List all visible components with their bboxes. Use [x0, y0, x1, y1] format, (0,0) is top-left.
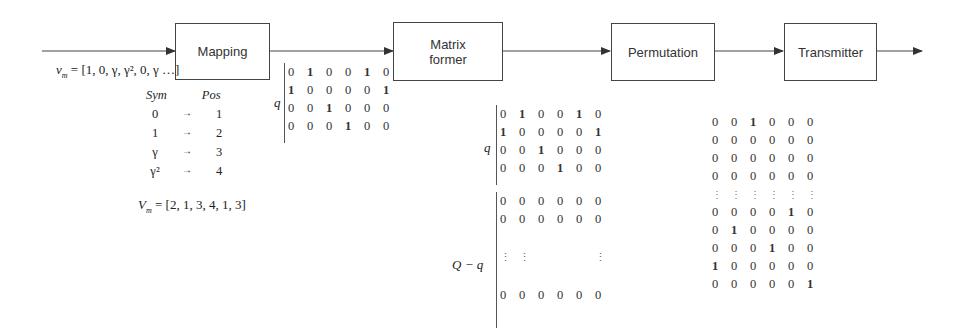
matrix-former-label-2: former — [429, 52, 467, 67]
cell: 0 — [769, 133, 788, 148]
mapping-pos: 2 — [202, 126, 236, 145]
cell: 0 — [788, 133, 807, 148]
mapping-sym: 1 — [138, 126, 172, 145]
input-vector-subscript: m — [62, 71, 68, 80]
cell: 0 — [576, 143, 595, 158]
cell: 0 — [383, 101, 402, 116]
cell: 0 — [500, 194, 519, 209]
matrix-full-top: 010010 100001 001000 000100 — [500, 105, 614, 177]
matrix-permuted: 001000 000000 000000 000000 ⋮⋮⋮⋮⋮⋮ 00001… — [712, 113, 826, 293]
cell: 1 — [731, 223, 750, 238]
cell: 0 — [383, 65, 402, 80]
cell: 0 — [750, 241, 769, 256]
cell: 0 — [364, 83, 383, 98]
cell: 0 — [750, 259, 769, 274]
cell: 1 — [807, 277, 826, 292]
cell: 0 — [519, 125, 538, 140]
matrix-row: 000000 — [500, 210, 614, 228]
vertical-ellipsis: ⋮ — [750, 189, 769, 200]
cell: 0 — [731, 115, 750, 130]
cell: 0 — [595, 194, 614, 209]
cell: 0 — [807, 223, 826, 238]
mapping-table: Sym Pos 0 → 1 1 → 2 γ → 3 γ² → 4 — [138, 88, 248, 183]
cell: 1 — [712, 259, 731, 274]
transmitter-label: Transmitter — [798, 45, 863, 60]
cell: 0 — [288, 101, 307, 116]
mapping-row: γ → 3 — [138, 145, 248, 164]
transmitter-block: Transmitter — [784, 23, 877, 81]
cell: 1 — [383, 83, 402, 98]
cell: 0 — [364, 119, 383, 134]
cell: 0 — [500, 107, 519, 122]
mapping-label: Mapping — [198, 44, 248, 59]
cell: 1 — [364, 65, 383, 80]
matrix-row: 000000 — [712, 167, 826, 185]
cell: 0 — [788, 241, 807, 256]
matrix-row: 100001 — [500, 123, 614, 141]
cell: 0 — [595, 212, 614, 227]
cell: 0 — [538, 288, 557, 303]
cell: 1 — [538, 143, 557, 158]
cell: 0 — [326, 83, 345, 98]
cell: 0 — [731, 259, 750, 274]
mapping-pos: 1 — [202, 107, 236, 126]
cell: 0 — [307, 101, 326, 116]
cell: 0 — [731, 277, 750, 292]
output-vector-value: = [2, 1, 3, 4, 1, 3] — [155, 197, 246, 212]
cell: 0 — [500, 212, 519, 227]
cell: 0 — [731, 241, 750, 256]
cell: 0 — [519, 288, 538, 303]
cell: 0 — [364, 101, 383, 116]
cell: 0 — [576, 194, 595, 209]
cell: 0 — [750, 277, 769, 292]
cell: 0 — [807, 241, 826, 256]
vertical-ellipsis: ⋮ — [595, 251, 614, 264]
cell: 0 — [538, 194, 557, 209]
cell: 0 — [345, 83, 364, 98]
cell: 0 — [769, 205, 788, 220]
vertical-ellipsis: ⋮ — [519, 251, 538, 264]
cell: 0 — [307, 119, 326, 134]
mapping-pos: 4 — [202, 164, 236, 183]
matrix-q: 010010 100001 001000 000100 — [288, 63, 402, 135]
cell: 1 — [769, 241, 788, 256]
cell: 1 — [750, 115, 769, 130]
matrix-row: 000000 — [500, 286, 614, 304]
cell: 0 — [731, 151, 750, 166]
cell: 0 — [595, 288, 614, 303]
cell: 1 — [576, 107, 595, 122]
mapping-row: γ² → 4 — [138, 164, 248, 183]
mapping-arrow: → — [172, 145, 202, 164]
cell: 0 — [807, 205, 826, 220]
cell: 1 — [788, 205, 807, 220]
cell: 0 — [538, 125, 557, 140]
input-vector-value: = [1, 0, γ, γ², 0, γ …] — [71, 62, 180, 77]
cell: 0 — [712, 241, 731, 256]
matrix-full-Qq-brace — [496, 192, 497, 328]
cell: 0 — [769, 223, 788, 238]
cell: 0 — [788, 259, 807, 274]
input-vector: vm = [1, 0, γ, γ², 0, γ …] — [56, 62, 179, 80]
matrix-former-label-1: Matrix — [430, 37, 465, 52]
cell: 0 — [769, 151, 788, 166]
mapping-block: Mapping — [175, 23, 270, 80]
permutation-block: Permutation — [611, 23, 715, 81]
matrix-full-bottom: 000000 000000 ⋮⋮⋮ 000000 — [500, 192, 614, 304]
mapping-arrow: → — [172, 126, 202, 145]
pos-header: Pos — [198, 88, 248, 107]
matrix-full-Qq-label: Q − q — [452, 257, 483, 273]
mapping-sym: 0 — [138, 107, 172, 126]
vertical-ellipsis: ⋮ — [788, 189, 807, 200]
output-vector: Vm = [2, 1, 3, 4, 1, 3] — [138, 197, 246, 215]
vertical-ellipsis: ⋮ — [731, 189, 750, 200]
matrix-row: 001000 — [500, 141, 614, 159]
mapping-sym: γ² — [138, 164, 172, 183]
output-vector-subscript: m — [146, 206, 152, 215]
cell: 0 — [788, 277, 807, 292]
cell: 0 — [788, 223, 807, 238]
cell: 0 — [557, 194, 576, 209]
matrix-row: 100001 — [288, 81, 402, 99]
cell: 0 — [712, 223, 731, 238]
cell: 1 — [500, 125, 519, 140]
matrix-row-ellipsis: ⋮⋮⋮ — [500, 228, 614, 286]
